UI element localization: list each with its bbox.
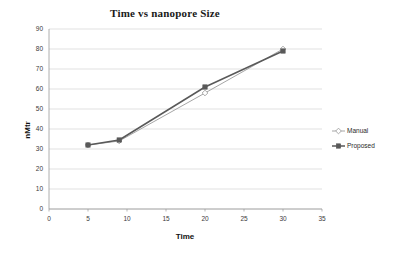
x-tick-label: 5 xyxy=(86,215,90,222)
legend-label-proposed: Proposed xyxy=(347,142,375,150)
x-tick-label: 35 xyxy=(318,215,326,222)
chart-container: Time vs nanopore Size 010203040506070809… xyxy=(0,0,399,258)
x-tick-labels-group: 05101520253035 xyxy=(47,215,326,222)
data-point-marker xyxy=(86,143,90,147)
x-axis-title: Time xyxy=(176,232,195,241)
y-tick-label: 0 xyxy=(39,205,43,212)
x-tick-label: 0 xyxy=(47,215,51,222)
y-tick-label: 80 xyxy=(36,45,44,52)
y-tick-label: 20 xyxy=(36,165,44,172)
legend-marker-manual xyxy=(336,128,342,134)
y-tick-labels-group: 0102030405060708090 xyxy=(36,25,44,212)
x-tick-label: 30 xyxy=(279,215,287,222)
y-tick-label: 50 xyxy=(36,105,44,112)
gridlines-group xyxy=(49,29,322,209)
y-tick-label: 70 xyxy=(36,65,44,72)
chart-plot-area: 0102030405060708090 05101520253035 nMtr … xyxy=(0,0,399,258)
chart-legend: ManualProposed xyxy=(332,127,375,150)
y-tick-label: 90 xyxy=(36,25,44,32)
x-tick-label: 25 xyxy=(240,215,248,222)
data-point-marker xyxy=(203,85,207,89)
y-tick-label: 60 xyxy=(36,85,44,92)
data-point-marker xyxy=(117,138,121,142)
data-point-marker xyxy=(202,90,208,96)
y-tick-label: 40 xyxy=(36,125,44,132)
y-tick-label: 10 xyxy=(36,185,44,192)
x-tick-label: 20 xyxy=(201,215,209,222)
data-point-marker xyxy=(281,49,285,53)
y-tick-label: 30 xyxy=(36,145,44,152)
series-line-proposed xyxy=(88,51,283,145)
data-series-group xyxy=(85,46,286,148)
x-tick-label: 10 xyxy=(123,215,131,222)
series-line-manual xyxy=(88,49,283,145)
x-tick-label: 15 xyxy=(162,215,170,222)
legend-label-manual: Manual xyxy=(347,127,369,134)
y-axis-title: nMtr xyxy=(23,121,32,138)
legend-marker-proposed xyxy=(336,144,340,148)
